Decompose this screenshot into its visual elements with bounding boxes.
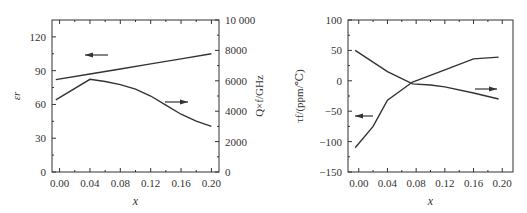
y-tick-label: 0 (337, 75, 343, 87)
x-tick-label: 0.20 (202, 177, 222, 189)
series-line (355, 57, 498, 148)
series-line (56, 79, 212, 126)
arrowhead-icon (180, 100, 188, 105)
series-line (355, 50, 498, 99)
y-axis-label: εr (10, 91, 22, 100)
y-tick-label: −150 (319, 166, 342, 178)
x-tick-label: 0.04 (378, 177, 398, 189)
x-tick-label: 0.12 (141, 177, 160, 189)
y2-tick-label: 8000 (225, 44, 248, 56)
y-tick-label: −50 (325, 105, 343, 117)
y2-tick-label: 4000 (225, 105, 248, 117)
x-axis-label: x (427, 194, 434, 208)
y-tick-label: 120 (30, 31, 47, 43)
x-tick-label: 0.00 (50, 177, 70, 189)
x-tick-label: 0.00 (349, 177, 369, 189)
y-tick-label: −100 (319, 136, 342, 148)
x-tick-label: 0.16 (464, 177, 484, 189)
x-tick-label: 0.20 (493, 177, 513, 189)
y-tick-label: 90 (35, 65, 47, 77)
y2-tick-label: 6000 (225, 75, 248, 87)
y-tick-label: 60 (35, 98, 47, 110)
series-line (56, 54, 212, 80)
figure: 0.000.040.080.120.160.200306090120020004… (0, 0, 527, 213)
chart-tau-f: 0.000.040.080.120.160.20−150−100−5005010… (293, 14, 513, 208)
y-tick-label: 100 (326, 14, 343, 26)
y-tick-label: 30 (35, 132, 47, 144)
y2-tick-label: 0 (225, 166, 231, 178)
x-tick-label: 0.08 (111, 177, 131, 189)
chart-permittivity-qf: 0.000.040.080.120.160.200306090120020004… (10, 14, 265, 208)
x-tick-label: 0.16 (171, 177, 191, 189)
x-axis-label: x (132, 194, 139, 208)
y2-tick-label: 10 000 (225, 14, 256, 26)
x-tick-label: 0.08 (407, 177, 427, 189)
y2-tick-label: 2000 (225, 136, 248, 148)
y2-axis-label: Q×f/GHz (253, 75, 265, 117)
arrowhead-icon (489, 87, 497, 92)
arrowhead-icon (85, 53, 93, 58)
arrowhead-icon (355, 114, 363, 119)
plot-frame (52, 20, 219, 172)
y-axis-label: τf/(ppm/℃) (293, 69, 306, 123)
y-tick-label: 0 (41, 166, 47, 178)
x-tick-label: 0.04 (80, 177, 100, 189)
x-tick-label: 0.12 (435, 177, 454, 189)
y-tick-label: 50 (331, 44, 343, 56)
